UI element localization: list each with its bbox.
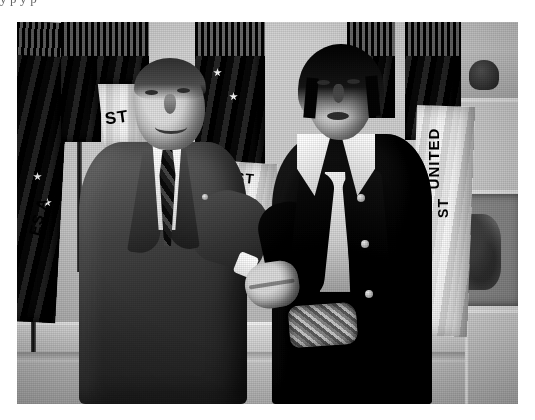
elvis-coat-button [357,194,365,202]
nixon-nose [164,94,176,114]
elvis-coat-button [365,290,373,298]
shelf-object [469,60,499,90]
nixon-eye-right [177,88,190,93]
flag-fringe [405,22,461,56]
nixon-smile [155,120,187,134]
elvis-coat-button [361,240,369,248]
flag-left-2 [61,22,101,142]
nixon-eye-left [145,90,158,95]
cutoff-text-line: y p y p [0,0,535,7]
flag-fringe [97,22,149,56]
flag-text-nixon: ST [104,106,130,129]
nixon-elvis-photograph: ES A ST ST UNITED ST [17,22,518,404]
elvis-belt-buckle [288,302,359,349]
elvis-eye-left [317,80,330,85]
elvis-eye-right [347,79,360,84]
wall-pedestal [465,310,518,404]
nixon-lapel-pin [202,194,208,200]
elvis-nose [333,84,344,103]
flag-fringe [195,22,265,56]
flag-fringe [61,22,101,56]
elvis-mouth [327,112,349,120]
flag-text-right-lower: ST [435,198,451,218]
